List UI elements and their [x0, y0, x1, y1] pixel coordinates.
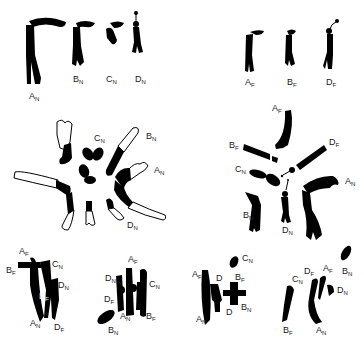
- label-b-f: BF: [235, 272, 245, 283]
- chromosome-open-1: [57, 120, 72, 164]
- chromosome-cluster-c-n: [77, 145, 106, 184]
- label-b-n: BN: [241, 302, 251, 313]
- label-a-n: AN: [30, 318, 40, 329]
- panel-middle-right: AF BF DF CN AN BN DN: [229, 103, 355, 240]
- label-d-f: DF: [54, 322, 65, 333]
- label-b-n: BN: [342, 266, 352, 277]
- label-c-n: CN: [242, 253, 253, 264]
- label-d-2: D: [226, 307, 233, 317]
- chromosome-a-f: [275, 110, 292, 149]
- label-b-f: BF: [287, 77, 297, 88]
- chromosome-b-n: [72, 21, 95, 66]
- label-a-f: AF: [323, 263, 333, 274]
- label-d-n: DN: [127, 220, 138, 231]
- label-c-n: CN: [292, 274, 303, 285]
- label-b-f: BF: [146, 311, 156, 322]
- chromosome-open-d-n: [106, 198, 124, 220]
- chromosome-a-n: [302, 176, 338, 240]
- label-b-n: BN: [73, 74, 83, 85]
- chromosome-c-n: [248, 168, 282, 189]
- label-c-n: CN: [52, 259, 63, 270]
- label-d-n: DN: [58, 280, 69, 291]
- label-d-f: DF: [104, 294, 115, 305]
- label-c-n: CN: [106, 74, 117, 85]
- chromosome-d-n: [132, 11, 143, 53]
- label-d-f: DF: [329, 137, 340, 148]
- label-d-n: DN: [135, 74, 146, 85]
- label-b-n: BN: [108, 325, 118, 336]
- label-b-f: BF: [6, 265, 16, 276]
- label-c-n: CN: [235, 164, 246, 175]
- label-d-f: DF: [326, 77, 337, 88]
- panel-top-right: AF BF DF: [245, 19, 339, 88]
- panel-top-left: AN BN CN DN: [26, 11, 146, 102]
- label-d-f: DF: [304, 266, 315, 277]
- label-b-n: BN: [146, 131, 156, 142]
- label-a-n: AN: [29, 91, 39, 102]
- label-c-n: CN: [94, 133, 105, 144]
- label-c-n: CN: [149, 279, 160, 290]
- label-d-n: DN: [282, 225, 293, 236]
- chromosome-a-f: [245, 30, 264, 72]
- panel-middle-left: CN BN AN DN: [14, 120, 166, 231]
- label-a-n: AN: [345, 176, 355, 187]
- chromosome-d-n: [281, 179, 291, 223]
- label-a-f: AF: [19, 246, 29, 257]
- label-a-f: AF: [272, 103, 282, 114]
- label-d-1: D: [216, 273, 223, 283]
- label-a-f: AF: [128, 254, 138, 265]
- chromosome-open-left: [14, 172, 74, 230]
- chromosome-c-n: [106, 22, 124, 45]
- chromosome-b-f: [285, 30, 296, 67]
- label-a-f: AF: [245, 77, 255, 88]
- label-d-n: DN: [105, 273, 116, 284]
- label-b-f: BF: [283, 325, 293, 336]
- panel-bottom-1: AF BF CN DN BF AN DF: [6, 246, 69, 333]
- label-a-n: AN: [316, 325, 326, 336]
- chromosome-b-f: [243, 144, 278, 163]
- label-a-f: AF: [192, 269, 202, 280]
- chromosome-figure: AN BN CN DN AF BF DF: [0, 0, 364, 346]
- chromosome-a-n: [26, 18, 66, 84]
- chromosome-open-small-1: [86, 201, 95, 225]
- chromosome-d-f: [281, 145, 327, 177]
- panel-bottom-2: DN AF CN DF AN BF BN: [95, 254, 160, 336]
- panel-bottom-3: AF D CN BF BN D AN: [192, 253, 253, 325]
- label-b-f: BF: [229, 140, 239, 151]
- chromosome-d-f: [323, 19, 339, 69]
- panel-bottom-4: CN DF AF BN DN BF AN: [282, 244, 353, 336]
- label-a-n: AN: [154, 165, 164, 176]
- label-d-n: DN: [337, 285, 348, 296]
